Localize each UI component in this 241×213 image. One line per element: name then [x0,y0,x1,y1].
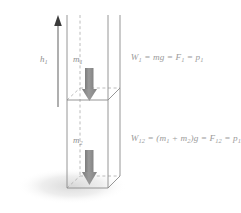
equation-bottom: W12 = (m1 + m2)g = F12 = p12 [114,133,241,145]
mass-label-top: m1 [73,54,83,65]
mass-label-bottom: m2 [73,135,84,146]
physics-diagram-figure: h1 m1 m2 W1 = mg = F1 = p1 W12 = (m1 + m… [0,0,241,213]
eq-bot-p2-base: + m [169,133,187,143]
eq-bot-p4-base: = p [222,133,238,143]
height-arrow-label-sub: 1 [45,58,48,65]
eq-bot-p4-sub: 12 [238,137,241,144]
eq-top-p2-sub: 1 [200,56,203,63]
mass-label-top-sub: 1 [80,58,83,65]
eq-top-p2-base: = p [184,52,200,62]
height-arrow-h1 [54,15,62,107]
weight-arrow-top [82,68,97,101]
diagram-canvas: h1 m1 m2 W1 = mg = F1 = p1 W12 = (m1 + m… [0,0,241,213]
equation-top: W1 = mg = F1 = p1 [114,52,216,64]
eq-top-p1-base: = mg = F [142,52,182,62]
eq-bot-p1-base: = (m [145,133,166,143]
mass-label-bottom-sub: 2 [80,139,84,146]
height-arrow-label: h1 [40,54,48,65]
eq-bot-p3-base: )g = F [190,133,216,143]
